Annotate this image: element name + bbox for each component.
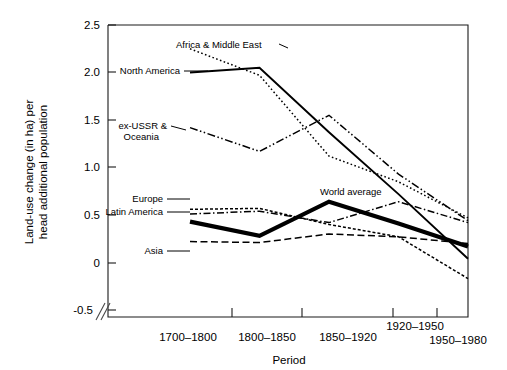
y-tick-label: -0.5 <box>73 304 93 316</box>
leader-line-ex-ussr-oceania <box>171 126 186 130</box>
series-label-north-america: North America <box>120 65 181 76</box>
series-layer <box>190 49 468 279</box>
series-label-europe: Europe <box>132 193 163 204</box>
x-axis-tick-labels: 1700–1800 1800–1850 1850–1920 1920–1950 … <box>159 320 487 346</box>
x-tick-label: 1700–1800 <box>159 331 217 343</box>
x-axis-ticks <box>232 308 437 317</box>
y-axis-ticks <box>108 25 116 310</box>
y-axis-title-line1: Land-use change (in ha) per <box>23 100 35 245</box>
x-tick-label: 1850–1920 <box>319 331 377 343</box>
series-label-africa-middle-east: Africa & Middle East <box>176 39 262 50</box>
x-tick-label: 1950–1980 <box>429 334 487 346</box>
series-label-layer: North America Africa & Middle East ex-US… <box>105 39 381 256</box>
y-tick-label: 2.0 <box>84 66 100 78</box>
y-tick-label: 1.5 <box>84 114 100 126</box>
chart-canvas: 2.5 2.0 1.5 1.0 0.5 0 -0.5 1700–1800 180… <box>0 0 507 370</box>
series-label-asia: Asia <box>145 245 164 256</box>
series-line-asia <box>190 234 468 244</box>
y-tick-label: 0.5 <box>84 209 100 221</box>
series-label-ex-ussr-oceania-2: Oceania <box>124 131 160 142</box>
x-tick-label: 1800–1850 <box>238 331 296 343</box>
y-axis-tick-labels: 2.5 2.0 1.5 1.0 0.5 0 -0.5 <box>73 19 100 316</box>
y-tick-label: 2.5 <box>84 19 100 31</box>
leader-line-africa-middle-east <box>279 44 288 48</box>
y-axis-title-line2: head additional population <box>37 105 49 239</box>
x-tick-label: 1920–1950 <box>386 320 444 332</box>
series-label-world-average: World average <box>320 186 382 197</box>
series-label-latin-america: Latin America <box>105 206 163 217</box>
y-tick-label: 1.0 <box>84 161 100 173</box>
y-tick-label: 0 <box>94 257 100 269</box>
series-label-ex-ussr-oceania-1: ex-USSR & <box>118 120 167 131</box>
chart-figure: 2.5 2.0 1.5 1.0 0.5 0 -0.5 1700–1800 180… <box>0 0 507 370</box>
x-axis-title: Period <box>272 354 305 366</box>
